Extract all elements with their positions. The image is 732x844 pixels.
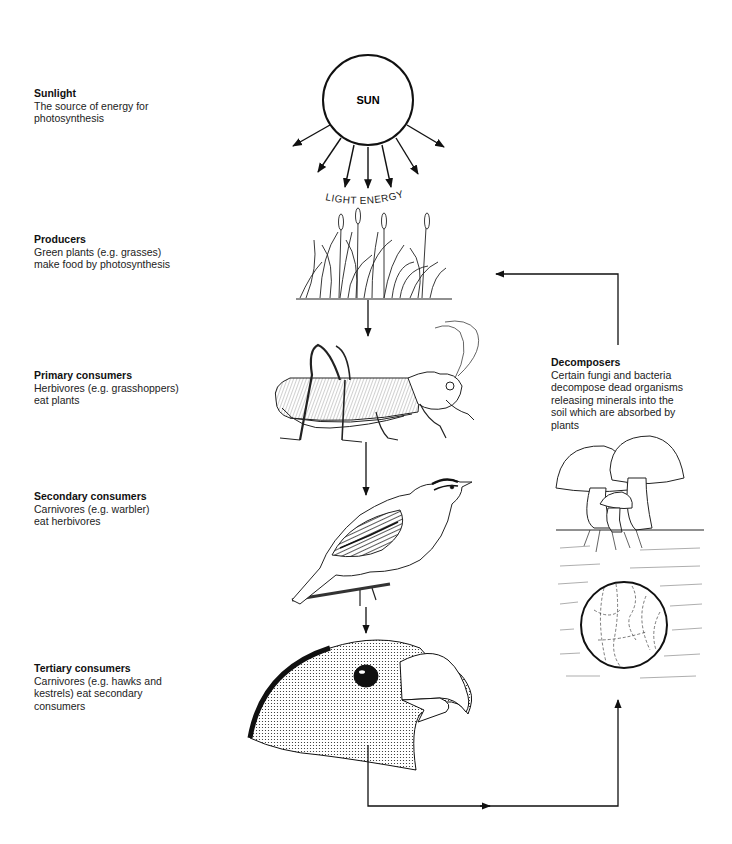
grass-illustration xyxy=(296,208,452,299)
light-energy-text: LIGHT ENERGY xyxy=(325,188,405,206)
hawk-illustration xyxy=(250,640,472,770)
food-chain-diagram: SUN LIGHT ENERGY xyxy=(0,0,732,844)
light-energy-label: LIGHT ENERGY xyxy=(325,188,405,206)
sun-label: SUN xyxy=(356,94,379,106)
warbler-illustration xyxy=(292,479,472,606)
light-ray-arrow xyxy=(382,145,391,187)
light-ray-arrow xyxy=(396,138,418,174)
light-ray-arrow xyxy=(318,138,341,172)
light-ray-arrow xyxy=(345,145,354,187)
decomposer-illustration xyxy=(556,436,704,678)
sun-illustration: SUN LIGHT ENERGY xyxy=(293,55,444,206)
light-ray-arrow xyxy=(407,125,444,147)
light-ray-arrow xyxy=(293,125,330,146)
bacteria-magnified-circle xyxy=(581,582,667,668)
arrow-decomposers-to-grass xyxy=(496,274,618,345)
arrow-to-decomposers xyxy=(480,700,618,806)
grasshopper-illustration xyxy=(275,321,478,442)
